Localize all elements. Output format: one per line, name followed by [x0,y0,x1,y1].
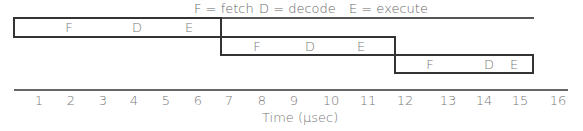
tick-16: 16 [550,93,567,108]
stage-fetch: F [253,39,260,54]
tick-9: 9 [290,93,298,108]
tick-5: 5 [162,93,170,108]
legend-execute: E = execute [349,1,428,16]
tick-13: 13 [440,93,457,108]
instruction-3-box: F D E [394,54,534,74]
tick-7: 7 [225,93,233,108]
tick-6: 6 [194,93,202,108]
instruction-2-box: F D E [220,36,396,56]
tick-11: 11 [360,93,377,108]
tick-8: 8 [258,93,266,108]
legend-decode: D = decode [259,1,336,16]
tick-10: 10 [323,93,340,108]
stage-fetch: F [426,57,433,72]
tick-14: 14 [476,93,493,108]
tick-2: 2 [67,93,75,108]
stage-decode: D [305,39,315,54]
instruction-1-box: F D E [13,17,222,38]
legend-underline [220,17,534,19]
legend-fetch: F = fetch [194,1,254,16]
tick-15: 15 [512,93,529,108]
tick-3: 3 [99,93,107,108]
time-axis-label: Time (μsec) [262,110,338,125]
tick-12: 12 [397,93,414,108]
stage-execute: E [510,57,518,72]
stage-decode: D [484,57,494,72]
stage-execute: E [185,20,193,35]
tick-4: 4 [130,93,138,108]
stage-fetch: F [65,20,72,35]
time-axis-line [14,89,568,91]
stage-execute: E [357,39,365,54]
stage-decode: D [132,20,142,35]
tick-1: 1 [35,93,43,108]
